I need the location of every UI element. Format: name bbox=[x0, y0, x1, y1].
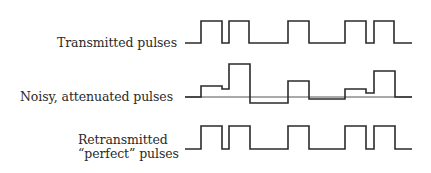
retransmitted-waveform bbox=[185, 126, 412, 149]
pulse-diagram bbox=[0, 0, 431, 173]
transmitted-waveform bbox=[185, 21, 412, 43]
